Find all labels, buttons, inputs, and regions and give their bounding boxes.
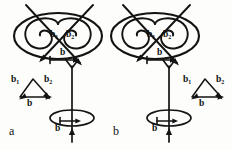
panel-b-helix-label-b: b <box>152 124 157 134</box>
panel-a-axis-up-arrowhead <box>69 128 75 135</box>
panel-a-helix-label-b: b <box>55 124 60 134</box>
panel-b-loop-label-b2: b2 <box>163 30 171 41</box>
panel-a-triangle-b-head <box>46 94 52 100</box>
panel-b-helix-b-head <box>172 118 178 123</box>
panel-a-graphics <box>14 5 102 142</box>
panel-a-caption: a <box>9 124 14 139</box>
panel-b-graphics <box>111 5 224 142</box>
panel-b-triangle-label-b1: b1 <box>183 75 191 86</box>
figure-canvas: b1 b2 b b1 b2 b b a b1 b2 b b1 b2 b b b <box>0 0 232 150</box>
panel-a-triangle-label-b: b <box>27 99 32 109</box>
panel-a-triangle-label-b1: b1 <box>11 75 19 86</box>
panel-b-triangle-b-head <box>218 94 224 100</box>
panel-b-loop-label-b: b <box>157 48 162 58</box>
panel-b-axis-up-arrowhead <box>166 128 172 135</box>
panel-a-loop-label-b2: b2 <box>66 30 74 41</box>
panel-a-loop-label-b1: b1 <box>50 30 58 41</box>
panel-b-triangle-label-b: b <box>199 99 204 109</box>
panel-a-helix-b-head <box>75 118 81 123</box>
panel-a-loop-label-b: b <box>60 48 65 58</box>
panel-b-caption: b <box>113 124 119 139</box>
panel-b-loop-label-b1: b1 <box>147 30 155 41</box>
panel-b-triangle-label-b2: b2 <box>216 75 224 86</box>
panel-a-triangle-label-b2: b2 <box>44 75 52 86</box>
